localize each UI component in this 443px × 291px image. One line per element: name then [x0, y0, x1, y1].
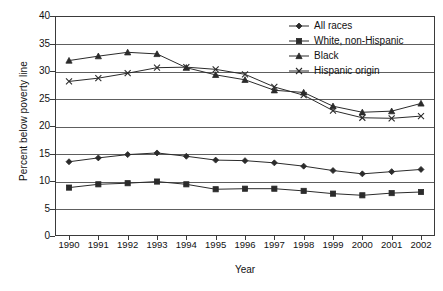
x-tick-mark	[333, 236, 334, 240]
y-tick-mark	[50, 16, 55, 17]
y-tick-label: 35	[30, 39, 50, 49]
poverty-line-chart: Percent below poverty line 0510152025303…	[0, 0, 443, 291]
x-tick-mark	[157, 236, 158, 240]
y-tick-label: 40	[30, 11, 50, 21]
data-point	[242, 158, 248, 164]
data-point	[272, 186, 277, 191]
data-point	[183, 153, 189, 159]
data-point	[184, 182, 189, 187]
legend-label: Black	[314, 49, 338, 63]
y-tick-label: 20	[30, 121, 50, 131]
data-point	[95, 155, 101, 161]
y-tick-label: 25	[30, 94, 50, 104]
data-point	[389, 169, 395, 175]
x-tick-mark	[392, 236, 393, 240]
x-tick-mark	[274, 236, 275, 240]
data-point	[271, 160, 277, 166]
legend-item-hispanic-origin: Hispanic origin	[288, 63, 436, 78]
y-tick-label: 0	[30, 231, 50, 241]
legend-item-white-non-hispanic: White, non-Hispanic	[288, 33, 436, 48]
data-point	[360, 193, 365, 198]
x-tick-mark	[98, 236, 99, 240]
y-tick-mark	[50, 99, 55, 100]
y-tick-mark	[50, 44, 55, 45]
chart-legend: All racesWhite, non-HispanicBlackHispani…	[288, 18, 436, 78]
legend-label: White, non-Hispanic	[314, 34, 403, 48]
y-tick-mark	[50, 154, 55, 155]
data-point	[330, 168, 336, 174]
y-tick-label: 5	[30, 204, 50, 214]
legend-marker-cross-icon	[288, 64, 310, 78]
data-point	[125, 181, 130, 186]
data-point	[359, 171, 365, 177]
x-tick-mark	[128, 236, 129, 240]
x-tick-mark	[245, 236, 246, 240]
x-tick-mark	[304, 236, 305, 240]
x-tick-mark	[216, 236, 217, 240]
data-point	[66, 185, 71, 190]
legend-marker-diamond-icon	[288, 19, 310, 33]
data-point	[154, 179, 159, 184]
x-tick-mark	[421, 236, 422, 240]
data-point	[330, 191, 335, 196]
y-tick-mark	[50, 181, 55, 182]
data-point	[125, 152, 131, 158]
legend-marker-triangle-icon	[288, 49, 310, 63]
legend-label: Hispanic origin	[314, 64, 380, 78]
x-axis-title: Year	[55, 264, 435, 275]
y-tick-mark	[50, 236, 55, 237]
data-point	[418, 189, 423, 194]
y-tick-mark	[50, 126, 55, 127]
y-tick-mark	[50, 209, 55, 210]
y-tick-label: 15	[30, 149, 50, 159]
data-point	[66, 159, 72, 165]
x-tick-label: 2002	[404, 240, 438, 250]
y-tick-mark	[50, 71, 55, 72]
data-point	[242, 186, 247, 191]
y-axis-tick-labels: 0510152025303540	[28, 16, 50, 236]
data-point	[301, 163, 307, 169]
data-point	[418, 166, 424, 172]
data-point	[96, 182, 101, 187]
data-point	[213, 187, 218, 192]
data-point	[213, 157, 219, 163]
y-tick-label: 30	[30, 66, 50, 76]
legend-item-black: Black	[288, 48, 436, 63]
data-point	[418, 100, 424, 106]
x-tick-mark	[186, 236, 187, 240]
legend-item-all-races: All races	[288, 18, 436, 33]
legend-marker-square-icon	[288, 34, 310, 48]
data-point	[301, 188, 306, 193]
x-tick-mark	[362, 236, 363, 240]
x-tick-mark	[69, 236, 70, 240]
data-point	[154, 150, 160, 156]
y-tick-label: 10	[30, 176, 50, 186]
data-point	[389, 191, 394, 196]
legend-label: All races	[314, 19, 352, 33]
